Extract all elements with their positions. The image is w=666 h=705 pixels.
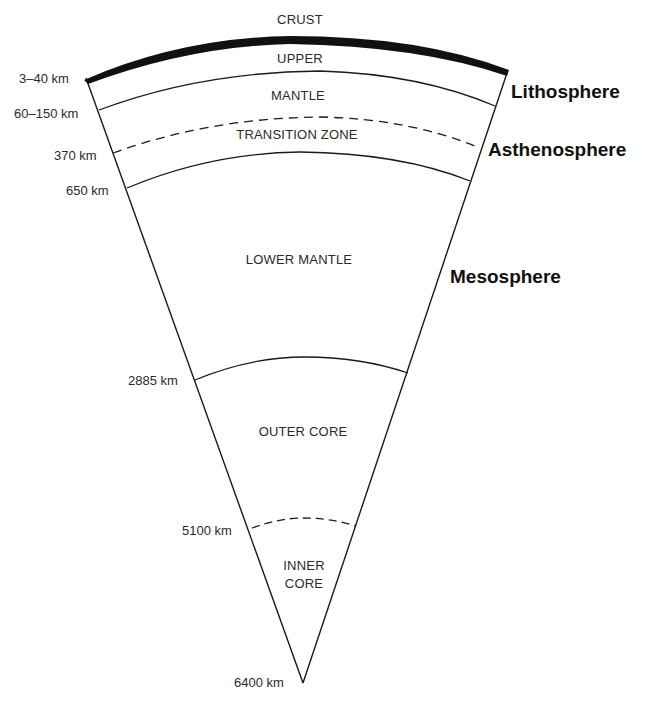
depth-label-370km: 370 km [54, 148, 97, 163]
depth-label-3-40km: 3–40 km [19, 71, 69, 86]
depth-label-2885km: 2885 km [128, 373, 178, 388]
wedge-right-edge [303, 73, 507, 683]
inner-core-boundary-dashed [252, 518, 356, 528]
core-mantle-boundary [195, 357, 408, 380]
layer-label-core: CORE [285, 576, 323, 591]
layer-label-mantle: MANTLE [271, 88, 325, 103]
layer-label-transition-zone: TRANSITION ZONE [236, 127, 357, 142]
layer-label-lower-mantle: LOWER MANTLE [246, 252, 352, 267]
layer-label-upper: UPPER [277, 51, 323, 66]
layer-label-inner: INNER [283, 558, 324, 573]
sphere-label-mesosphere: Mesosphere [450, 266, 561, 288]
sphere-label-lithosphere: Lithosphere [511, 81, 620, 103]
transition-zone-base [127, 152, 470, 188]
layer-label-outer-core: OUTER CORE [259, 424, 348, 439]
depth-label-60-150km: 60–150 km [14, 106, 78, 121]
depth-label-650km: 650 km [66, 183, 109, 198]
depth-label-5100km: 5100 km [182, 523, 232, 538]
earth-section-drawing [0, 0, 666, 705]
sphere-label-asthenosphere: Asthenosphere [488, 139, 626, 161]
depth-label-6400km: 6400 km [234, 675, 284, 690]
wedge-left-edge [86, 78, 303, 683]
layer-label-crust: CRUST [277, 12, 323, 27]
